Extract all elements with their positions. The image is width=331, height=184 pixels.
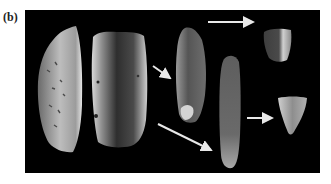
artifact-tool-small-top bbox=[264, 29, 292, 62]
artifact-photo-panel bbox=[25, 10, 320, 173]
arrow-core-to-longblade bbox=[158, 124, 211, 150]
artifact-blade-core bbox=[92, 32, 148, 148]
arrow-core-to-blade bbox=[153, 66, 170, 78]
artifact-tool-small-bottom bbox=[278, 97, 307, 135]
artifact-flake-large bbox=[38, 26, 82, 152]
artifact-blade-long bbox=[219, 56, 240, 168]
artifact-blade-elongated bbox=[176, 28, 206, 123]
figure-label: (b) bbox=[3, 10, 18, 24]
